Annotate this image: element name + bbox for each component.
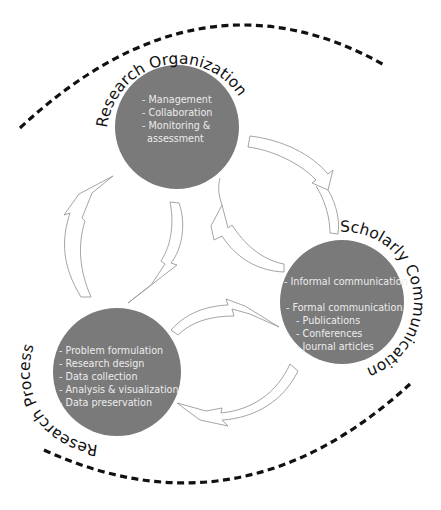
list-item: - Informal communication <box>284 276 408 287</box>
list-item: assessment <box>147 133 204 144</box>
list-item: - Data preservation <box>59 397 152 408</box>
arrow-process-to-comm <box>171 299 279 335</box>
list-item: - Data collection <box>59 371 138 382</box>
arrow-comm-to-org <box>211 178 284 272</box>
node-scholarly-communication: - Informal communication - Formal commun… <box>280 240 411 364</box>
list-item: - Monitoring & <box>142 120 211 131</box>
node-research-process: - Problem formulation - Research design … <box>53 308 182 436</box>
arrow-comm-to-process <box>177 364 298 426</box>
arrow-org-to-process <box>128 202 183 303</box>
list-item: - Conferences <box>296 328 362 339</box>
list-item: - Analysis & visualization <box>59 384 179 395</box>
arrow-process-to-org <box>64 176 113 297</box>
list-item: - Collaboration <box>142 107 212 118</box>
list-item: - Publications <box>296 315 360 326</box>
list-item: - Management <box>142 94 212 105</box>
list-item: - Journal articles <box>296 341 374 352</box>
list-item: - Problem formulation <box>59 345 163 356</box>
list-item: - Formal communication <box>286 302 402 313</box>
arrow-org-to-comm <box>248 136 339 234</box>
list-item: - Research design <box>59 358 144 369</box>
research-lifecycle-diagram: - Management - Collaboration - Monitorin… <box>0 0 441 510</box>
